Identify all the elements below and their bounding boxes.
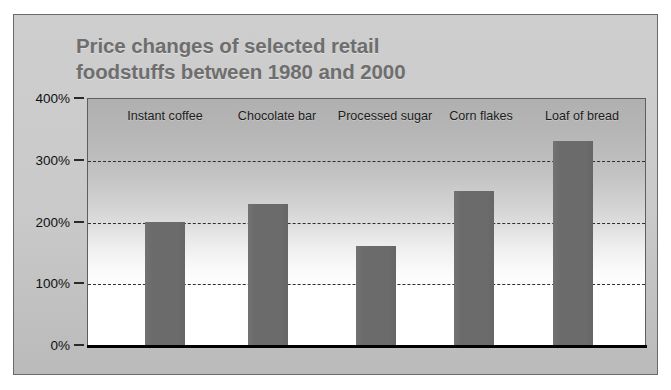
chart-title-line-2: foodstuffs between 1980 and 2000 (76, 59, 546, 85)
category-label: Chocolate bar (238, 109, 316, 123)
bar[interactable] (145, 222, 185, 346)
bars-layer (88, 99, 645, 345)
y-axis-tick-label: 400% (35, 91, 70, 106)
figure-card: Price changes of selected retail foodstu… (13, 14, 658, 375)
y-axis-tick-mark (74, 282, 84, 284)
bar[interactable] (553, 141, 593, 345)
chart-page: Price changes of selected retail foodstu… (0, 0, 671, 390)
y-axis-tick-mark (74, 344, 84, 346)
category-labels: Instant coffeeChocolate barProcessed sug… (88, 109, 645, 131)
y-axis: 400%300%200%100%0% (14, 15, 86, 376)
y-axis-tick-label: 200% (35, 214, 70, 229)
chart-title-line-1: Price changes of selected retail (76, 33, 546, 59)
y-axis-tick-label: 100% (35, 276, 70, 291)
plot-area: Instant coffeeChocolate barProcessed sug… (87, 98, 646, 345)
x-axis-baseline (87, 345, 647, 348)
bar[interactable] (356, 246, 396, 345)
category-label: Corn flakes (449, 109, 513, 123)
bar[interactable] (248, 204, 288, 345)
y-axis-tick-mark (74, 221, 84, 223)
category-label: Processed sugar (338, 109, 433, 123)
y-axis-tick-label: 0% (50, 338, 70, 353)
y-axis-tick-mark (74, 159, 84, 161)
category-label: Instant coffee (127, 109, 202, 123)
category-label: Loaf of bread (545, 109, 619, 123)
bar[interactable] (454, 191, 494, 345)
chart-title: Price changes of selected retail foodstu… (76, 33, 546, 84)
y-axis-tick-label: 300% (35, 152, 70, 167)
y-axis-tick-mark (74, 97, 84, 99)
